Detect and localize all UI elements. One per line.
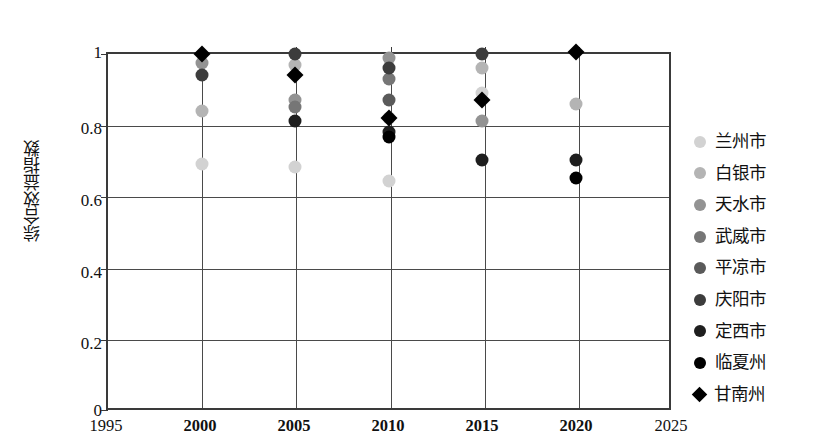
legend-item-label: 临夏州 [715,354,766,372]
data-point [195,104,208,117]
x-tick-label-2020: 2020 [541,418,611,435]
circle-marker-icon [694,231,706,243]
x-tick-label-2000: 2000 [165,418,235,435]
data-point [476,115,489,128]
x-tick-label-2005: 2005 [259,418,329,435]
y-tick-0-8 [101,126,108,127]
gridline-y-0-4 [108,269,669,270]
data-point [287,67,304,84]
y-tick-1 [101,54,108,55]
y-tick-label-1: 1 [56,44,102,61]
data-point [382,131,395,144]
data-point [195,157,208,170]
x-tick-label-2010: 2010 [353,418,423,435]
data-point [476,62,489,75]
gridline-y-0-2 [108,340,669,341]
data-point [567,44,584,61]
circle-marker-icon [694,294,706,306]
data-point [569,171,582,184]
legend-item[interactable]: 临夏州 [694,347,820,379]
legend-item[interactable]: 平凉市 [694,252,820,284]
y-tick-label-0-6: 0.6 [56,192,102,209]
y-tick-0-4 [101,269,108,270]
legend: 兰州市白银市天水市武威市平凉市庆阳市定西市临夏州甘南州 [694,126,820,410]
x-tick-label-2015: 2015 [447,418,517,435]
circle-marker-icon [694,199,706,211]
legend-item-label: 平凉市 [715,259,766,277]
data-point [569,154,582,167]
circle-marker-icon [694,357,706,369]
legend-item[interactable]: 白银市 [694,158,820,190]
circle-marker-icon [694,167,706,179]
data-point [289,115,302,128]
data-point [382,62,395,75]
circle-marker-icon [694,262,706,274]
legend-item-label: 天水市 [715,196,766,214]
data-point [476,48,489,61]
data-point [476,154,489,167]
plot-area [106,52,671,410]
legend-item[interactable]: 武威市 [694,221,820,253]
data-point [382,94,395,107]
gridline-x-2010 [391,54,392,408]
y-tick-label-0-8: 0.8 [56,120,102,137]
legend-item[interactable]: 兰州市 [694,126,820,158]
legend-item[interactable]: 定西市 [694,316,820,348]
legend-item[interactable]: 庆阳市 [694,284,820,316]
legend-item-label: 武威市 [715,228,766,246]
gridline-x-2015 [485,54,486,408]
data-point [569,97,582,110]
y-axis-title: 综合效益指数 [24,140,50,242]
data-point [195,69,208,82]
data-point [289,101,302,114]
scatter-chart: 综合效益指数 1 0.8 0.6 0.4 0.2 0 1995 2000 200… [0,0,826,447]
legend-item-label: 定西市 [715,323,766,341]
y-tick-label-0-2: 0.2 [56,335,102,352]
x-tick-label-2025: 2025 [636,418,706,435]
legend-item-label: 甘南州 [714,386,765,404]
data-point [289,48,302,61]
y-tick-0-2 [101,340,108,341]
gridline-y-0-6 [108,197,669,198]
data-point [380,109,397,126]
circle-marker-icon [694,136,706,148]
legend-item[interactable]: 甘南州 [694,379,820,411]
circle-marker-icon [694,325,706,337]
y-tick-0-6 [101,197,108,198]
y-tick-label-0-4: 0.4 [56,264,102,281]
legend-item-label: 白银市 [715,165,766,183]
y-tick-0 [101,410,108,411]
x-tick-label-1995: 1995 [71,418,141,435]
legend-item-label: 庆阳市 [715,291,766,309]
legend-item[interactable]: 天水市 [694,189,820,221]
data-point [382,175,395,188]
legend-item-label: 兰州市 [715,133,766,151]
data-point [289,161,302,174]
diamond-marker-icon [692,387,708,403]
